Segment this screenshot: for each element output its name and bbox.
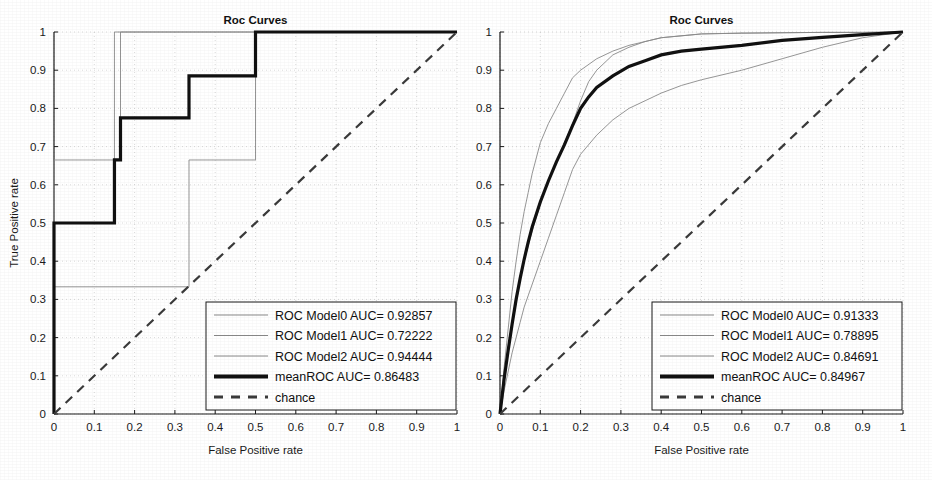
y-tick-label: 0.8 (476, 102, 492, 114)
y-tick-label: 1 (486, 26, 492, 38)
x-tick-label: 0 (497, 421, 503, 433)
y-tick-label: 0 (40, 408, 46, 420)
y-tick-label: 0.9 (30, 64, 46, 76)
y-tick-label: 0.7 (30, 141, 46, 153)
legend-label: ROC Model2 AUC= 0.84691 (721, 350, 878, 364)
y-tick-label: 0.6 (476, 179, 492, 191)
y-tick-label: 0.3 (30, 293, 46, 305)
legend-label: ROC Model1 AUC= 0.72222 (275, 329, 432, 343)
x-tick-label: 0.9 (409, 421, 425, 433)
x-tick-label: 1 (454, 421, 460, 433)
y-tick-label: 0.1 (476, 370, 492, 382)
x-tick-label: 0.3 (613, 421, 629, 433)
x-axis-title: False Positive rate (654, 444, 749, 456)
x-tick-label: 0.4 (653, 421, 670, 433)
legend-label: meanROC AUC= 0.86483 (275, 370, 419, 384)
x-tick-label: 0.1 (532, 421, 548, 433)
left-chart-svg: 00.10.20.30.40.50.60.70.80.9100.10.20.30… (0, 0, 466, 480)
x-axis-title: False Positive rate (208, 444, 303, 456)
x-tick-label: 0.5 (694, 421, 710, 433)
x-tick-label: 0.7 (774, 421, 790, 433)
legend-label: ROC Model0 AUC= 0.91333 (721, 309, 878, 323)
x-tick-label: 0.2 (573, 421, 589, 433)
legend-label: chance (721, 391, 761, 405)
panel-right-roc-chart: 00.10.20.30.40.50.60.70.80.9100.10.20.30… (466, 0, 932, 480)
y-tick-label: 0.8 (30, 102, 46, 114)
legend[interactable]: ROC Model0 AUC= 0.92857ROC Model1 AUC= 0… (206, 302, 456, 410)
x-tick-label: 1 (900, 421, 906, 433)
y-tick-label: 1 (40, 26, 46, 38)
chart-title: Roc Curves (224, 14, 288, 26)
x-tick-label: 0 (51, 421, 57, 433)
roc-figure: 00.10.20.30.40.50.60.70.80.9100.10.20.30… (0, 0, 932, 480)
y-axis-title: True Positive rate (8, 178, 20, 268)
x-tick-label: 0.6 (734, 421, 750, 433)
legend-label: ROC Model1 AUC= 0.78895 (721, 329, 878, 343)
y-tick-label: 0.9 (476, 64, 492, 76)
legend-label: ROC Model0 AUC= 0.92857 (275, 309, 432, 323)
x-tick-label: 0.9 (855, 421, 871, 433)
x-tick-label: 0.8 (814, 421, 830, 433)
x-tick-label: 0.1 (86, 421, 102, 433)
legend-label: meanROC AUC= 0.84967 (721, 370, 865, 384)
y-tick-label: 0.3 (476, 293, 492, 305)
right-chart-svg: 00.10.20.30.40.50.60.70.80.9100.10.20.30… (466, 0, 932, 480)
y-tick-label: 0.2 (476, 332, 492, 344)
legend-label: chance (275, 391, 315, 405)
y-tick-label: 0.5 (30, 217, 46, 229)
x-tick-label: 0.8 (368, 421, 384, 433)
y-tick-label: 0.1 (30, 370, 46, 382)
x-tick-label: 0.5 (248, 421, 264, 433)
legend-label: ROC Model2 AUC= 0.94444 (275, 350, 432, 364)
y-tick-label: 0.5 (476, 217, 492, 229)
y-tick-label: 0 (486, 408, 492, 420)
y-tick-label: 0.2 (30, 332, 46, 344)
chart-title: Roc Curves (670, 14, 734, 26)
x-tick-label: 0.6 (288, 421, 304, 433)
y-tick-label: 0.7 (476, 141, 492, 153)
x-tick-label: 0.4 (207, 421, 224, 433)
x-tick-label: 0.2 (127, 421, 143, 433)
panel-left-roc-chart: 00.10.20.30.40.50.60.70.80.9100.10.20.30… (0, 0, 466, 480)
x-tick-label: 0.3 (167, 421, 183, 433)
y-tick-label: 0.4 (30, 255, 47, 267)
y-tick-label: 0.4 (476, 255, 493, 267)
x-tick-label: 0.7 (328, 421, 344, 433)
legend[interactable]: ROC Model0 AUC= 0.91333ROC Model1 AUC= 0… (652, 302, 902, 410)
y-tick-label: 0.6 (30, 179, 46, 191)
